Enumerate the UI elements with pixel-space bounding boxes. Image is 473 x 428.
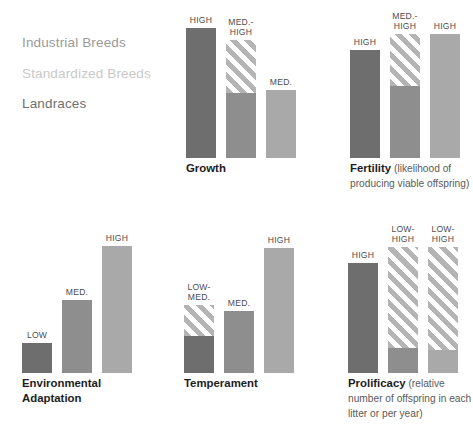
- bar-solid-segment: [348, 263, 378, 373]
- chart-caption-temperament: Temperament: [184, 376, 304, 391]
- bar-growth-3: MED.: [266, 78, 296, 158]
- bar-solid-segment: [430, 34, 460, 158]
- bar-value-label: LOW- MED.: [187, 283, 210, 302]
- bar-rect: [184, 305, 214, 373]
- bar-solid-segment: [102, 246, 132, 373]
- bar-rect: [348, 263, 378, 373]
- chart-title: Temperament: [184, 377, 258, 389]
- bar-value-label: HIGH: [190, 16, 212, 25]
- legend: Industrial Breeds Standardized Breeds La…: [22, 36, 182, 128]
- bar-group: HIGHMED.- HIGHHIGH: [350, 12, 460, 158]
- bar-group: LOWMED.HIGH: [22, 234, 132, 373]
- chart-panel-growth: HIGHMED.- HIGHMED.: [186, 10, 306, 158]
- bar-solid-segment: [350, 50, 380, 158]
- bar-striped-segment: [388, 247, 418, 348]
- bar-solid-segment: [224, 311, 254, 373]
- chart-panel-prolificacy: HIGHLOW- HIGHLOW- HIGH: [348, 228, 470, 373]
- chart-panel-fertility: HIGHMED.- HIGHHIGH: [350, 10, 470, 158]
- bar-value-label: HIGH: [434, 22, 456, 31]
- bar-value-label: LOW- HIGH: [391, 225, 414, 244]
- bar-solid-segment: [428, 350, 458, 373]
- bar-value-label: HIGH: [268, 236, 290, 245]
- bar-solid-segment: [390, 86, 420, 158]
- bar-group: LOW- MED.MED.HIGH: [184, 236, 294, 373]
- bar-environmental-adaptation-3: HIGH: [102, 234, 132, 373]
- bar-prolificacy-3: LOW- HIGH: [428, 225, 458, 373]
- bar-solid-segment: [226, 93, 256, 158]
- bar-rect: [266, 90, 296, 158]
- bar-rect: [428, 247, 458, 373]
- bar-solid-segment: [22, 343, 52, 373]
- bar-value-label: HIGH: [354, 38, 376, 47]
- bar-rect: [102, 246, 132, 373]
- bar-solid-segment: [184, 336, 214, 373]
- bar-group: HIGHLOW- HIGHLOW- HIGH: [348, 225, 458, 373]
- bar-solid-segment: [62, 300, 92, 373]
- bar-fertility-1: HIGH: [350, 38, 380, 158]
- bar-value-label: MED.: [228, 299, 250, 308]
- chart-title: Prolificacy: [348, 377, 406, 389]
- bar-solid-segment: [388, 348, 418, 373]
- bar-value-label: MED.- HIGH: [392, 12, 417, 31]
- bar-striped-segment: [390, 34, 420, 86]
- bar-rect: [264, 248, 294, 373]
- bar-value-label: LOW- HIGH: [431, 225, 454, 244]
- chart-panel-environmental-adaptation: LOWMED.HIGH: [22, 228, 142, 373]
- bar-striped-segment: [184, 305, 214, 336]
- bar-rect: [186, 28, 216, 158]
- legend-item-industrial-breeds: Industrial Breeds: [22, 36, 182, 50]
- bar-value-label: MED.- HIGH: [228, 18, 253, 37]
- bar-solid-segment: [266, 90, 296, 158]
- bar-value-label: LOW: [27, 331, 47, 340]
- bar-rect: [62, 300, 92, 373]
- legend-item-landraces: Landraces: [22, 97, 182, 111]
- bar-value-label: MED.: [66, 288, 88, 297]
- bar-environmental-adaptation-1: LOW: [22, 331, 52, 373]
- legend-label: Landraces: [22, 96, 86, 111]
- bar-rect: [350, 50, 380, 158]
- bar-rect: [388, 247, 418, 373]
- chart-title: Environmental Adaptation: [22, 377, 101, 404]
- chart-title: Growth: [186, 162, 226, 174]
- bar-value-label: HIGH: [352, 251, 374, 260]
- bar-growth-1: HIGH: [186, 16, 216, 158]
- bar-value-label: HIGH: [106, 234, 128, 243]
- bar-prolificacy-1: HIGH: [348, 251, 378, 373]
- bar-rect: [224, 311, 254, 373]
- bar-solid-segment: [264, 248, 294, 373]
- chart-title: Fertility: [350, 162, 391, 174]
- chart-caption-environmental-adaptation: Environmental Adaptation: [22, 376, 140, 407]
- bar-rect: [226, 40, 256, 158]
- bar-temperament-2: MED.: [224, 299, 254, 373]
- chart-caption-fertility: Fertility (likelihood of producing viabl…: [350, 161, 472, 191]
- bar-temperament-3: HIGH: [264, 236, 294, 373]
- bar-temperament-1: LOW- MED.: [184, 283, 214, 373]
- bar-fertility-2: MED.- HIGH: [390, 12, 420, 158]
- bar-growth-2: MED.- HIGH: [226, 18, 256, 158]
- chart-panel-temperament: LOW- MED.MED.HIGH: [184, 228, 304, 373]
- bar-environmental-adaptation-2: MED.: [62, 288, 92, 373]
- bar-striped-segment: [428, 247, 458, 350]
- bar-fertility-3: HIGH: [430, 22, 460, 158]
- bar-prolificacy-2: LOW- HIGH: [388, 225, 418, 373]
- legend-item-standardized-breeds: Standardized Breeds: [22, 67, 182, 81]
- bar-value-label: MED.: [270, 78, 292, 87]
- legend-label: Industrial Breeds: [22, 35, 126, 50]
- bar-striped-segment: [226, 40, 256, 93]
- bar-solid-segment: [186, 28, 216, 158]
- chart-caption-prolificacy: Prolificacy (relative number of offsprin…: [348, 376, 472, 421]
- bar-rect: [430, 34, 460, 158]
- bar-group: HIGHMED.- HIGHMED.: [186, 16, 296, 158]
- bar-rect: [22, 343, 52, 373]
- legend-label: Standardized Breeds: [22, 66, 151, 81]
- bar-rect: [390, 34, 420, 158]
- chart-caption-growth: Growth: [186, 161, 306, 176]
